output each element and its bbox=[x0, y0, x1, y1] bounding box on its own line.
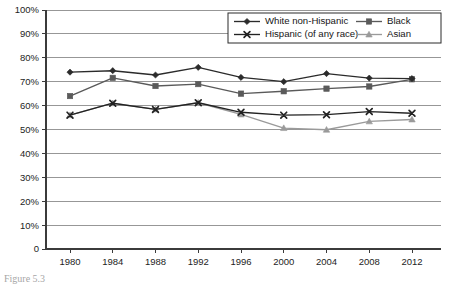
y-axis-label-60: 60% bbox=[20, 100, 40, 111]
datapoint-black-2004 bbox=[324, 86, 329, 91]
datapoint-black-1996 bbox=[238, 91, 243, 96]
x-axis-label-1988: 1988 bbox=[145, 256, 166, 267]
x-axis-label-2004: 2004 bbox=[316, 256, 337, 267]
datapoint-white-non-hispanic-1980 bbox=[67, 69, 73, 75]
datapoint-white-non-hispanic-1988 bbox=[152, 72, 158, 78]
y-axis-label-90: 90% bbox=[20, 28, 40, 39]
datapoint-white-non-hispanic-1984 bbox=[110, 68, 116, 74]
x-axis-label-2012: 2012 bbox=[401, 256, 422, 267]
datapoint-white-non-hispanic-1996 bbox=[238, 74, 244, 80]
y-axis-label-100: 100% bbox=[15, 4, 40, 15]
datapoint-white-non-hispanic-2008 bbox=[366, 75, 372, 81]
y-axis-label-0: 0 bbox=[34, 243, 39, 254]
datapoint-black-2000 bbox=[281, 89, 286, 94]
y-axis-label-70: 70% bbox=[20, 76, 40, 87]
datapoint-white-non-hispanic-2004 bbox=[323, 70, 329, 76]
y-axis-label-10: 10% bbox=[20, 220, 40, 231]
x-axis-label-1992: 1992 bbox=[188, 256, 209, 267]
datapoint-black-1980 bbox=[67, 93, 72, 98]
x-axis-label-2000: 2000 bbox=[273, 256, 294, 267]
datapoint-black-1988 bbox=[153, 83, 158, 88]
x-axis-label-2008: 2008 bbox=[359, 256, 380, 267]
datapoint-black-1984 bbox=[110, 75, 115, 80]
datapoint-black-1992 bbox=[196, 81, 201, 86]
y-axis-label-40: 40% bbox=[20, 148, 40, 159]
legend-label-hispanic-of-any-race: Hispanic (of any race) bbox=[265, 28, 358, 39]
datapoint-white-non-hispanic-1992 bbox=[195, 64, 201, 70]
legend-label-asian: Asian bbox=[387, 28, 411, 39]
y-axis-label-50: 50% bbox=[20, 124, 40, 135]
x-axis-label-1984: 1984 bbox=[102, 256, 123, 267]
y-axis-label-80: 80% bbox=[20, 52, 40, 63]
x-axis-label-1980: 1980 bbox=[59, 256, 80, 267]
datapoint-white-non-hispanic-2000 bbox=[281, 79, 287, 85]
datapoint-black-2008 bbox=[367, 84, 372, 89]
legend-label-white-non-hispanic: White non-Hispanic bbox=[265, 15, 348, 26]
x-axis-label-1996: 1996 bbox=[230, 256, 251, 267]
y-axis-label-20: 20% bbox=[20, 196, 40, 207]
figure-caption: Figure 5.3 bbox=[4, 273, 45, 284]
y-axis-label-30: 30% bbox=[20, 172, 40, 183]
legend-label-black: Black bbox=[387, 15, 411, 26]
